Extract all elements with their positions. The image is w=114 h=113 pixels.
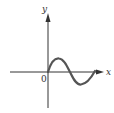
x-axis-arrow-icon (96, 70, 104, 75)
function-graph: y x 0 (0, 0, 114, 113)
sine-curve (48, 58, 95, 84)
origin-label: 0 (41, 74, 47, 84)
y-axis-arrow-icon (46, 13, 51, 22)
y-axis-label: y (41, 4, 48, 14)
x-axis-label: x (106, 67, 111, 77)
